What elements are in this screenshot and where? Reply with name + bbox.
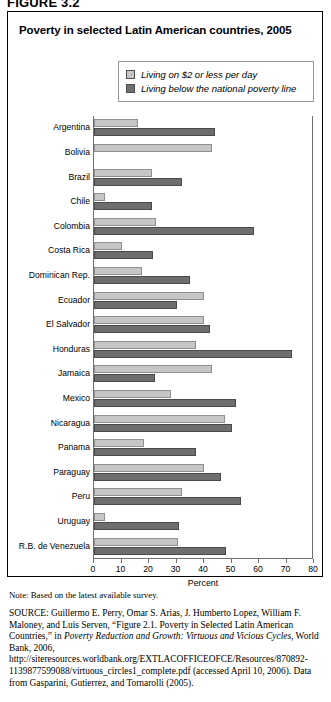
legend-item-label: Living below the national poverty line <box>141 83 296 94</box>
x-axis-tick-label: 10 <box>116 564 126 574</box>
bar-group <box>94 141 312 166</box>
bar <box>94 193 105 201</box>
y-axis-label: Ecuador <box>8 296 90 305</box>
chart-legend: Living on $2 or less per day Living belo… <box>118 61 314 102</box>
y-axis-label: Jamaica <box>8 369 90 378</box>
bar-group <box>94 116 312 141</box>
legend-item: Living below the national poverty line <box>126 82 307 95</box>
x-axis-tick <box>93 559 94 563</box>
bar-group <box>94 338 312 363</box>
source-italic-title: Poverty Reduction and Growth: Virtuous a… <box>64 631 291 641</box>
bar <box>94 128 215 136</box>
bar <box>94 316 204 324</box>
y-axis-label: Colombia <box>8 222 90 231</box>
chart-note: Note: Based on the latest available surv… <box>9 590 319 600</box>
x-axis-tick <box>148 559 149 563</box>
x-axis-title: Percent <box>93 578 313 588</box>
y-axis-label: Panama <box>8 443 90 452</box>
x-axis-tick-label: 0 <box>91 564 96 574</box>
bar <box>94 399 236 407</box>
bar <box>94 522 179 530</box>
legend-item-label: Living on $2 or less per day <box>141 69 257 80</box>
x-axis-tick-label: 50 <box>226 564 236 574</box>
y-axis-category-labels: ArgentinaBoliviaBrazilChileColombiaCosta… <box>8 116 90 559</box>
bar-group <box>94 436 312 461</box>
legend-item: Living on $2 or less per day <box>126 68 307 81</box>
y-axis-label: El Salvador <box>8 320 90 329</box>
bar <box>94 227 254 235</box>
bar-group <box>94 362 312 387</box>
bar <box>94 538 178 546</box>
bar-group <box>94 510 312 535</box>
plot-wrapper: ArgentinaBoliviaBrazilChileColombiaCosta… <box>8 116 322 576</box>
bar <box>94 448 196 456</box>
bar-group <box>94 387 312 412</box>
bar <box>94 341 196 349</box>
y-axis-label: Peru <box>8 492 90 501</box>
bar <box>94 251 153 259</box>
y-axis-label: Costa Rica <box>8 246 90 255</box>
bar-group <box>94 165 312 190</box>
bar <box>94 439 144 447</box>
chart-source: SOURCE: Guillermo E. Perry, Omar S. Aria… <box>9 608 321 689</box>
bar <box>94 169 152 177</box>
light-grey-swatch-icon <box>126 70 135 79</box>
bar <box>94 390 171 398</box>
x-axis-tick <box>313 559 314 563</box>
y-axis-label: Argentina <box>8 123 90 132</box>
y-axis-label: Nicaragua <box>8 419 90 428</box>
chart-container: Poverty in selected Latin American count… <box>7 11 323 577</box>
bar <box>94 415 225 423</box>
plot-area <box>93 116 313 559</box>
x-axis-tick-label: 40 <box>198 564 208 574</box>
y-axis-label: Dominican Rep. <box>8 271 90 280</box>
bar <box>94 178 182 186</box>
x-axis-tick-label: 80 <box>308 564 318 574</box>
y-axis-label: Brazil <box>8 173 90 182</box>
y-axis-label: Honduras <box>8 345 90 354</box>
x-axis-tick-label: 70 <box>281 564 291 574</box>
bar <box>94 144 212 152</box>
bar <box>94 473 221 481</box>
figure-number-label: FIGURE 3.2 <box>7 0 80 9</box>
bar <box>94 242 122 250</box>
y-axis-label: Chile <box>8 197 90 206</box>
bar <box>94 365 212 373</box>
bar <box>94 119 138 127</box>
bar <box>94 547 226 555</box>
bar <box>94 488 182 496</box>
bar-group <box>94 461 312 486</box>
x-axis-tick <box>176 559 177 563</box>
x-axis-tick <box>258 559 259 563</box>
bar-group <box>94 288 312 313</box>
bar-group <box>94 214 312 239</box>
bar <box>94 513 105 521</box>
bar <box>94 497 241 505</box>
bar-group <box>94 411 312 436</box>
bar-group <box>94 264 312 289</box>
y-axis-label: Paraguay <box>8 468 90 477</box>
bar <box>94 350 292 358</box>
bar-group <box>94 534 312 559</box>
x-axis-tick <box>121 559 122 563</box>
bar <box>94 292 204 300</box>
bar <box>94 464 204 472</box>
chart-title: Poverty in selected Latin American count… <box>19 24 292 36</box>
y-axis-label: Uruguay <box>8 517 90 526</box>
x-axis-tick <box>231 559 232 563</box>
bar <box>94 202 152 210</box>
figure-page: FIGURE 3.2 Poverty in selected Latin Ame… <box>0 0 331 702</box>
x-axis-tick-label: 30 <box>171 564 181 574</box>
bar <box>94 301 177 309</box>
dark-grey-swatch-icon <box>126 84 135 93</box>
y-axis-label: R.B. de Venezuela <box>8 542 90 551</box>
x-axis-tick-label: 20 <box>143 564 153 574</box>
bar <box>94 276 190 284</box>
y-axis-label: Bolivia <box>8 148 90 157</box>
bar <box>94 325 210 333</box>
source-prefix: SOURCE: <box>9 608 49 618</box>
bar <box>94 267 142 275</box>
y-axis-label: Mexico <box>8 394 90 403</box>
bar-group <box>94 239 312 264</box>
bar <box>94 218 156 226</box>
